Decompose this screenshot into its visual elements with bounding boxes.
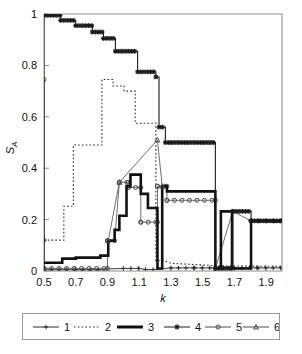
legend-item-4[interactable]: 4 bbox=[164, 321, 201, 333]
legend-label-4: 4 bbox=[195, 321, 201, 333]
x-tick-label: 1.7 bbox=[227, 276, 242, 288]
x-axis-label: k bbox=[160, 292, 166, 304]
x-tick-label: 1.3 bbox=[163, 276, 178, 288]
data-point-marker-star bbox=[89, 23, 94, 28]
chart-figure: 00.20.40.60.81 0.50.70.91.11.31.51.71.9 … bbox=[0, 0, 302, 354]
legend-items-group: 123456 bbox=[23, 314, 279, 339]
legend-label-2: 2 bbox=[105, 321, 111, 333]
legend-item-5[interactable]: 5 bbox=[205, 321, 242, 333]
y-axis-label-subscript: A bbox=[10, 142, 19, 148]
data-point-marker-star bbox=[229, 266, 234, 271]
legend-item-6[interactable]: 6 bbox=[243, 321, 279, 333]
y-tick-label: 0.4 bbox=[22, 162, 37, 174]
legend-item-2[interactable]: 2 bbox=[74, 321, 111, 333]
data-point-marker-star bbox=[100, 30, 105, 35]
legend-label-3: 3 bbox=[148, 321, 154, 333]
data-point-marker-star bbox=[132, 49, 137, 54]
legend-item-1[interactable]: 1 bbox=[33, 321, 70, 333]
x-tick-label: 1.9 bbox=[258, 276, 273, 288]
legend-label-6: 6 bbox=[274, 321, 279, 333]
x-tick-label: 0.9 bbox=[100, 276, 115, 288]
chart-legend: 123456 bbox=[22, 313, 280, 340]
chart-plot-area: 00.20.40.60.81 0.50.70.91.11.31.51.71.9 … bbox=[0, 0, 302, 354]
y-axis-label: SA bbox=[4, 142, 19, 155]
data-point-marker-plus bbox=[44, 325, 48, 329]
x-tick-label: 0.7 bbox=[68, 276, 83, 288]
data-point-marker-star bbox=[246, 209, 251, 214]
x-tick-label: 1.5 bbox=[195, 276, 210, 288]
y-tick-label: 1 bbox=[31, 8, 37, 20]
svg-text:SA: SA bbox=[4, 142, 19, 155]
legend-item-3[interactable]: 3 bbox=[117, 321, 154, 333]
data-point-marker-star bbox=[277, 218, 282, 223]
y-tick-label: 0.6 bbox=[22, 111, 37, 123]
legend-label-5: 5 bbox=[236, 321, 242, 333]
data-point-marker-star bbox=[175, 325, 180, 330]
x-tick-label: 1.1 bbox=[132, 276, 147, 288]
data-point-marker-star bbox=[153, 75, 158, 80]
x-tick-label: 0.5 bbox=[36, 276, 51, 288]
y-tick-label: 0.8 bbox=[22, 59, 37, 71]
data-point-marker-star bbox=[151, 69, 156, 74]
legend-label-1: 1 bbox=[64, 321, 70, 333]
y-tick-label: 0.2 bbox=[22, 214, 37, 226]
data-point-marker-star bbox=[160, 125, 165, 130]
data-point-marker-star bbox=[211, 140, 216, 145]
data-point-marker-star bbox=[111, 36, 116, 41]
data-point-marker-star bbox=[71, 18, 76, 23]
